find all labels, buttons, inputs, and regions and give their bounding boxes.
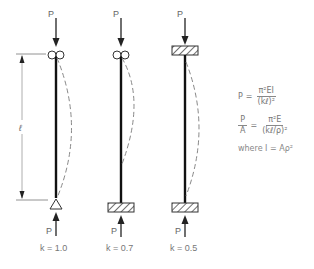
equals-sign: = [246,92,253,101]
k-label: k = 0.7 [106,243,133,253]
fixed-support-icon [172,46,198,55]
pin-support-icon [50,199,62,209]
load-label-top: P [113,9,119,19]
k-label: k = 1.0 [40,243,67,253]
load-label-bottom: P [46,226,52,236]
lhs-fraction: P A [238,115,247,136]
deflected-shape [57,58,72,198]
load-label-top: P [177,9,183,19]
formula-critical-stress: P A = π²E (kℓ/ρ)² [238,115,314,136]
formula-critical-load: P = π²EI (kℓ)² [238,86,314,107]
denominator: (kℓ)² [256,97,277,107]
deflected-shape [186,62,199,196]
fixed-support-icon [108,203,134,212]
denominator: A [238,126,247,136]
arrow-down-icon [53,18,60,47]
arrow-up-icon [118,215,125,237]
fraction: π²EI (kℓ)² [256,86,277,107]
denominator: (kℓ/ρ)² [260,126,289,136]
length-dimension: ℓ [16,54,48,200]
length-label: ℓ [18,123,22,133]
arrow-up-icon [53,212,60,236]
load-label-bottom: P [111,226,117,236]
column-k-0-5: P P k = 0.5 [170,9,199,253]
k-label: k = 0.5 [170,243,197,253]
fraction: π²E (kℓ/ρ)² [260,115,289,136]
arrow-down-icon [118,18,125,47]
fixed-support-icon [172,203,198,212]
arrow-down-icon [182,18,189,45]
euler-formulas: P = π²EI (kℓ)² P A = π²E (kℓ/ρ)² where I… [238,86,314,153]
deflected-shape [122,58,134,164]
numerator: P [238,115,247,126]
formula-lhs: P [238,92,243,101]
column-k-0-7: P P k = 0.7 [106,9,134,253]
arrow-up-icon [182,215,189,237]
load-label-bottom: P [175,226,181,236]
load-label-top: P [48,9,54,19]
where-clause: where I = Aρ² [238,144,314,153]
numerator: π²E [266,115,283,126]
numerator: π²EI [257,86,276,97]
equals-sign: = [250,121,257,130]
column-k-1-0: P P k = 1.0 ℓ [16,9,72,253]
